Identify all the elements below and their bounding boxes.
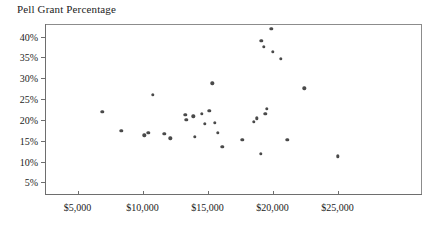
data-point	[163, 132, 166, 135]
data-point	[255, 117, 258, 120]
data-point	[336, 155, 339, 158]
data-point	[200, 112, 203, 115]
y-axis-tick-label: 20%	[20, 114, 38, 125]
plot-area	[45, 24, 422, 195]
x-axis-tick-label: $15,000	[191, 202, 224, 213]
x-axis-tick-label: $25,000	[321, 202, 354, 213]
y-axis-tick	[41, 78, 45, 79]
x-axis-labels: $5,000$10,000$15,000$20,000$25,000	[45, 195, 422, 223]
data-point	[303, 87, 306, 90]
data-point	[151, 93, 154, 96]
y-axis-tick	[41, 120, 45, 121]
y-axis-tick-label: 35%	[20, 52, 38, 63]
data-point	[143, 134, 146, 137]
y-axis-tick-label: 40%	[20, 31, 38, 42]
data-point	[147, 131, 150, 134]
data-point	[192, 114, 195, 117]
data-point	[184, 113, 187, 116]
data-point	[211, 82, 214, 85]
data-point	[271, 50, 274, 53]
data-point	[252, 120, 255, 123]
y-axis-tick-label: 10%	[20, 156, 38, 167]
data-point	[259, 152, 262, 155]
page-title: Pell Grant Percentage	[17, 3, 116, 15]
x-axis-tick-label: $5,000	[64, 202, 92, 213]
x-axis-tick-label: $20,000	[256, 202, 289, 213]
data-point	[120, 129, 123, 132]
data-point	[203, 122, 206, 125]
data-point	[216, 131, 219, 134]
data-point	[208, 109, 211, 112]
y-axis-tick-label: 15%	[20, 135, 38, 146]
y-axis-tick	[41, 141, 45, 142]
y-axis	[45, 24, 46, 195]
data-point	[279, 57, 282, 60]
data-point	[193, 135, 196, 138]
y-axis-labels: 5%10%15%20%25%30%35%40%	[0, 24, 38, 195]
data-point	[241, 138, 244, 141]
data-point	[185, 118, 188, 121]
data-point	[265, 107, 268, 110]
y-axis-tick-label: 5%	[25, 177, 38, 188]
y-axis-tick	[41, 57, 45, 58]
axis-right	[421, 24, 422, 195]
y-axis-tick-label: 30%	[20, 73, 38, 84]
data-point	[262, 45, 265, 48]
y-axis-tick	[41, 162, 45, 163]
data-point	[213, 121, 216, 124]
data-point	[260, 39, 263, 42]
data-point	[270, 27, 273, 30]
data-point	[221, 145, 224, 148]
data-point	[286, 138, 289, 141]
data-point	[169, 137, 172, 140]
chart-page: Pell Grant Percentage 5%10%15%20%25%30%3…	[0, 0, 443, 235]
y-axis-tick	[41, 37, 45, 38]
y-axis-tick	[41, 99, 45, 100]
data-point	[264, 112, 267, 115]
x-axis-tick-label: $10,000	[126, 202, 159, 213]
data-point	[101, 110, 104, 113]
y-axis-tick	[41, 182, 45, 183]
axis-top	[45, 24, 422, 25]
y-axis-tick-label: 25%	[20, 94, 38, 105]
